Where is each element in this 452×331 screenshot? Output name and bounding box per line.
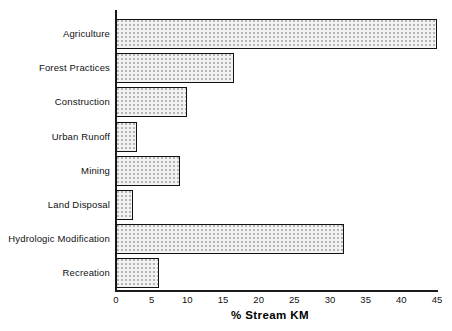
x-tick-label: 15 [218, 294, 229, 305]
x-tick-label: 25 [289, 294, 300, 305]
bar-chart: AgricultureForest PracticesConstructionU… [0, 0, 452, 331]
category-label: Hydrologic Modification [0, 233, 110, 244]
x-tick-label: 10 [182, 294, 193, 305]
x-axis-tick-labels: 051015202530354045 [0, 294, 452, 308]
x-tick-label: 40 [396, 294, 407, 305]
x-tick-label: 0 [113, 294, 118, 305]
category-label: Urban Runoff [0, 131, 110, 142]
bar [116, 190, 133, 220]
bar [116, 122, 137, 152]
category-label: Forest Practices [0, 62, 110, 73]
x-tick-label: 30 [325, 294, 336, 305]
category-label: Mining [0, 165, 110, 176]
bar [116, 156, 180, 186]
category-label: Agriculture [0, 28, 110, 39]
bar [116, 224, 344, 254]
bar [116, 87, 187, 117]
category-label: Land Disposal [0, 199, 110, 210]
category-axis-labels: AgricultureForest PracticesConstructionU… [0, 12, 110, 291]
bar [116, 19, 437, 49]
bar [116, 258, 159, 288]
x-tick-label: 20 [253, 294, 264, 305]
bar [116, 53, 234, 83]
category-label: Recreation [0, 267, 110, 278]
x-tick-label: 5 [149, 294, 154, 305]
x-axis-title-text: % Stream KM [231, 309, 309, 321]
plot-area [116, 12, 437, 291]
x-axis-title: % Stream KM [0, 309, 452, 321]
x-tick-label: 45 [432, 294, 443, 305]
category-label: Construction [0, 96, 110, 107]
x-tick-label: 35 [360, 294, 371, 305]
